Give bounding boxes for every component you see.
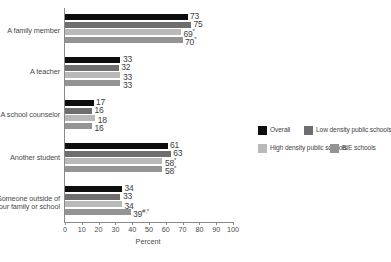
category-label-school-counselor: A school counselor bbox=[0, 111, 60, 119]
x-tick-label-0: 0 bbox=[63, 226, 67, 234]
bar-value-bie: 58* bbox=[165, 164, 176, 176]
bar-value-bie-number: 16 bbox=[94, 122, 103, 132]
bar-row: 39#,* bbox=[65, 209, 232, 215]
x-tick-label-10: 10 bbox=[78, 226, 86, 234]
legend-label-overall: Overall bbox=[270, 126, 290, 134]
legend-item-high-density[interactable]: High density public schools bbox=[258, 144, 330, 153]
bar-row: 18 bbox=[65, 115, 232, 121]
bar-group-someone-outside: 34 33 34 39#,* bbox=[65, 186, 232, 216]
bar-low-density bbox=[65, 194, 120, 200]
legend-swatch-low-density bbox=[304, 126, 313, 135]
bar-bie bbox=[65, 37, 183, 43]
category-label-someone-outside: Someone outside of your family or school bbox=[0, 195, 60, 212]
bar-group-teacher: 33 32 33 33 bbox=[65, 57, 232, 87]
x-tick-label-80: 80 bbox=[195, 226, 203, 234]
bar-bie bbox=[65, 80, 120, 86]
legend-label-low-density: Low density public schools bbox=[316, 126, 391, 134]
bar-row: 17 bbox=[65, 100, 232, 106]
legend-item-low-density[interactable]: Low density public schools bbox=[304, 126, 391, 135]
legend-swatch-overall bbox=[258, 126, 267, 135]
x-tick-label-30: 30 bbox=[111, 226, 119, 234]
bar-value-bie: 16 bbox=[94, 121, 103, 133]
bar-row: 16 bbox=[65, 123, 232, 129]
category-label-family-member: A family member bbox=[0, 27, 60, 35]
legend: Overall Low density public schools High … bbox=[258, 126, 384, 162]
bar-value-bie: 39#,* bbox=[133, 207, 149, 219]
x-tick-label-20: 20 bbox=[95, 226, 103, 234]
x-tick-label-90: 90 bbox=[212, 226, 220, 234]
significance-mark: #,* bbox=[142, 208, 149, 214]
bar-row: 75 bbox=[65, 22, 232, 28]
bar-row: 61 bbox=[65, 143, 232, 149]
bar-low-density bbox=[65, 65, 119, 71]
bar-row: 63 bbox=[65, 151, 232, 157]
bar-bie bbox=[65, 209, 131, 215]
x-tick-label-40: 40 bbox=[128, 226, 136, 234]
bar-row: 33 bbox=[65, 194, 232, 200]
legend-row-2: High density public schools BIE schools bbox=[258, 144, 384, 153]
bar-high-density bbox=[65, 29, 181, 35]
bar-value-bie: 70* bbox=[185, 35, 196, 47]
bar-low-density bbox=[65, 108, 92, 114]
bar-row: 16 bbox=[65, 108, 232, 114]
bar-row: 34 bbox=[65, 186, 232, 192]
bar-bie bbox=[65, 166, 162, 172]
legend-row-1: Overall Low density public schools bbox=[258, 126, 384, 135]
bar-value-bie-number: 33 bbox=[123, 79, 132, 89]
bar-overall bbox=[65, 57, 120, 63]
bar-row: 58* bbox=[65, 158, 232, 164]
bar-high-density bbox=[65, 115, 95, 121]
bar-row: 33 bbox=[65, 80, 232, 86]
x-tick-label-50: 50 bbox=[145, 226, 153, 234]
legend-item-bie[interactable]: BIE schools bbox=[330, 144, 376, 153]
bar-row: 69* bbox=[65, 29, 232, 35]
bar-group-family-member: 73 75 69* 70* bbox=[65, 14, 232, 44]
legend-swatch-high-density bbox=[258, 144, 267, 153]
x-axis-title: Percent bbox=[136, 237, 161, 246]
x-tick-label-100: 100 bbox=[227, 226, 239, 234]
legend-swatch-bie bbox=[330, 144, 339, 153]
bar-group-another-student: 61 63 58* 58* bbox=[65, 143, 232, 173]
bar-group-school-counselor: 17 16 18 16 bbox=[65, 100, 232, 130]
bar-low-density bbox=[65, 22, 191, 28]
legend-label-bie: BIE schools bbox=[342, 144, 376, 152]
category-label-another-student: Another student bbox=[0, 154, 60, 162]
x-tick-label-70: 70 bbox=[179, 226, 187, 234]
bar-value-bie-number: 58 bbox=[165, 165, 174, 175]
bar-row: 33 bbox=[65, 72, 232, 78]
bar-value-bie-number: 70 bbox=[185, 36, 194, 46]
category-label-teacher: A teacher bbox=[0, 68, 60, 76]
bar-bie bbox=[65, 123, 92, 129]
significance-mark: * bbox=[192, 28, 194, 34]
category-label-someone-outside-line2: your family or school bbox=[0, 203, 60, 211]
bar-value-bie-number: 39 bbox=[133, 208, 142, 218]
bar-high-density bbox=[65, 72, 120, 78]
bar-overall bbox=[65, 143, 168, 149]
bar-row: 32 bbox=[65, 65, 232, 71]
bar-overall bbox=[65, 186, 122, 192]
bar-value-bie: 33 bbox=[123, 78, 132, 90]
x-tick-label-60: 60 bbox=[162, 226, 170, 234]
legend-item-overall[interactable]: Overall bbox=[258, 126, 304, 135]
bar-low-density bbox=[65, 151, 171, 157]
bar-high-density bbox=[65, 158, 162, 164]
significance-mark: * bbox=[194, 36, 196, 42]
bar-row: 58* bbox=[65, 166, 232, 172]
significance-mark: * bbox=[174, 165, 176, 171]
bar-row: 73 bbox=[65, 14, 232, 20]
bar-overall bbox=[65, 14, 188, 20]
bar-high-density bbox=[65, 201, 122, 207]
plot-area: 73 75 69* 70* 33 bbox=[64, 8, 232, 222]
bar-overall bbox=[65, 100, 94, 106]
bar-row: 70* bbox=[65, 37, 232, 43]
significance-mark: * bbox=[174, 157, 176, 163]
bar-row: 33 bbox=[65, 57, 232, 63]
